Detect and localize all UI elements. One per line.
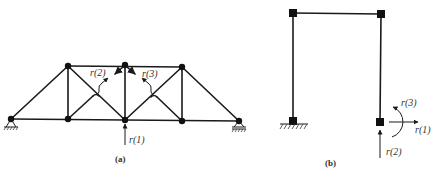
caption-a: (a) (115, 154, 126, 164)
r2-member-squiggle-arrow-icon (97, 78, 108, 95)
diagram-canvas: r(1) r(2) r(3) (a) (0, 0, 438, 176)
joint (122, 117, 128, 123)
joint (376, 118, 384, 126)
diagonal-right-up-a (157, 97, 182, 121)
crossover-hop-left (93, 95, 99, 97)
right-end-diagonal (182, 67, 239, 121)
r1-label-b: r(1) (415, 124, 431, 136)
frame-beam (293, 13, 381, 14)
joint (179, 118, 185, 124)
diagonal-left-up-a (68, 96, 93, 119)
frame-joints (289, 9, 385, 126)
joint (179, 64, 185, 70)
caption-b: (b) (325, 158, 336, 168)
r1-label-a: r(1) (129, 134, 145, 146)
left-end-diagonal (11, 66, 68, 119)
frame-figure: r(1) r(2) r(3) (b) (280, 9, 431, 168)
r3-label-a: r(3) (142, 68, 158, 80)
r3-label-b: r(3) (401, 97, 417, 109)
r2-label-a: r(2) (90, 67, 106, 79)
r2-member-end-arrow-icon (115, 67, 123, 74)
r3-member-squiggle-arrow-icon (142, 78, 153, 95)
crossover-hop-right (151, 96, 157, 98)
joint (289, 9, 297, 17)
r3-member-end-arrow-icon (127, 67, 135, 74)
joint (377, 10, 385, 18)
frame-right-column (380, 14, 381, 122)
joint (65, 116, 71, 122)
r2-label-b: r(2) (386, 146, 402, 158)
joint (65, 63, 71, 69)
truss-figure: r(1) r(2) r(3) (a) (4, 62, 246, 164)
